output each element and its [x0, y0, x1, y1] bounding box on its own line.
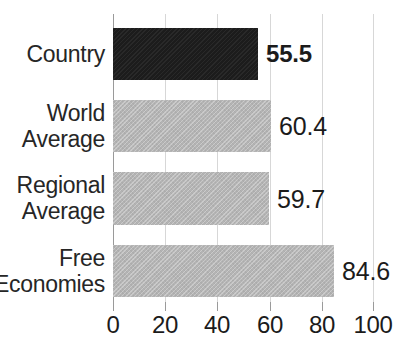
category-label-line: Average [22, 126, 105, 152]
category-label-world-average: World Average [22, 100, 105, 152]
x-tick-label: 60 [257, 311, 283, 339]
x-tick-label: 80 [309, 311, 335, 339]
x-tick [165, 302, 166, 311]
category-label-free-economies: Free Economies [0, 245, 105, 297]
x-tick [270, 302, 271, 311]
category-label-line: Country [27, 41, 105, 67]
x-tick-label: 100 [353, 311, 392, 339]
bar-value-label: 55.5 [266, 40, 312, 68]
bar-value-label: 60.4 [279, 112, 327, 141]
bar-free-economies[interactable] [113, 245, 334, 297]
bar-row: 59.7 [113, 172, 374, 225]
bar-row: 60.4 [113, 100, 374, 152]
x-tick [217, 302, 218, 311]
plot-area: 55.5 60.4 59.7 84.6 [113, 14, 374, 302]
category-label-country: Country [27, 41, 105, 67]
category-label-line: Free [0, 245, 105, 271]
x-tick [113, 302, 114, 311]
bar-value-label: 59.7 [277, 184, 325, 213]
category-label-line: Regional [17, 172, 105, 198]
bar-chart: 55.5 60.4 59.7 84.6 Country World Averag… [0, 0, 406, 360]
x-tick [373, 302, 374, 311]
bar-country[interactable] [113, 28, 258, 80]
bar-world-average[interactable] [113, 100, 271, 152]
category-label-regional-average: Regional Average [17, 172, 105, 224]
x-tick-label: 40 [204, 311, 230, 339]
x-tick [322, 302, 323, 311]
bar-row: 84.6 [113, 245, 374, 297]
category-label-line: Average [17, 198, 105, 224]
bar-value-label: 84.6 [342, 257, 390, 286]
x-tick-label: 0 [106, 311, 119, 339]
bar-row: 55.5 [113, 28, 374, 80]
category-label-line: Economies [0, 271, 105, 297]
category-label-line: World [22, 100, 105, 126]
bar-regional-average[interactable] [113, 172, 269, 225]
x-tick-label: 20 [152, 311, 178, 339]
